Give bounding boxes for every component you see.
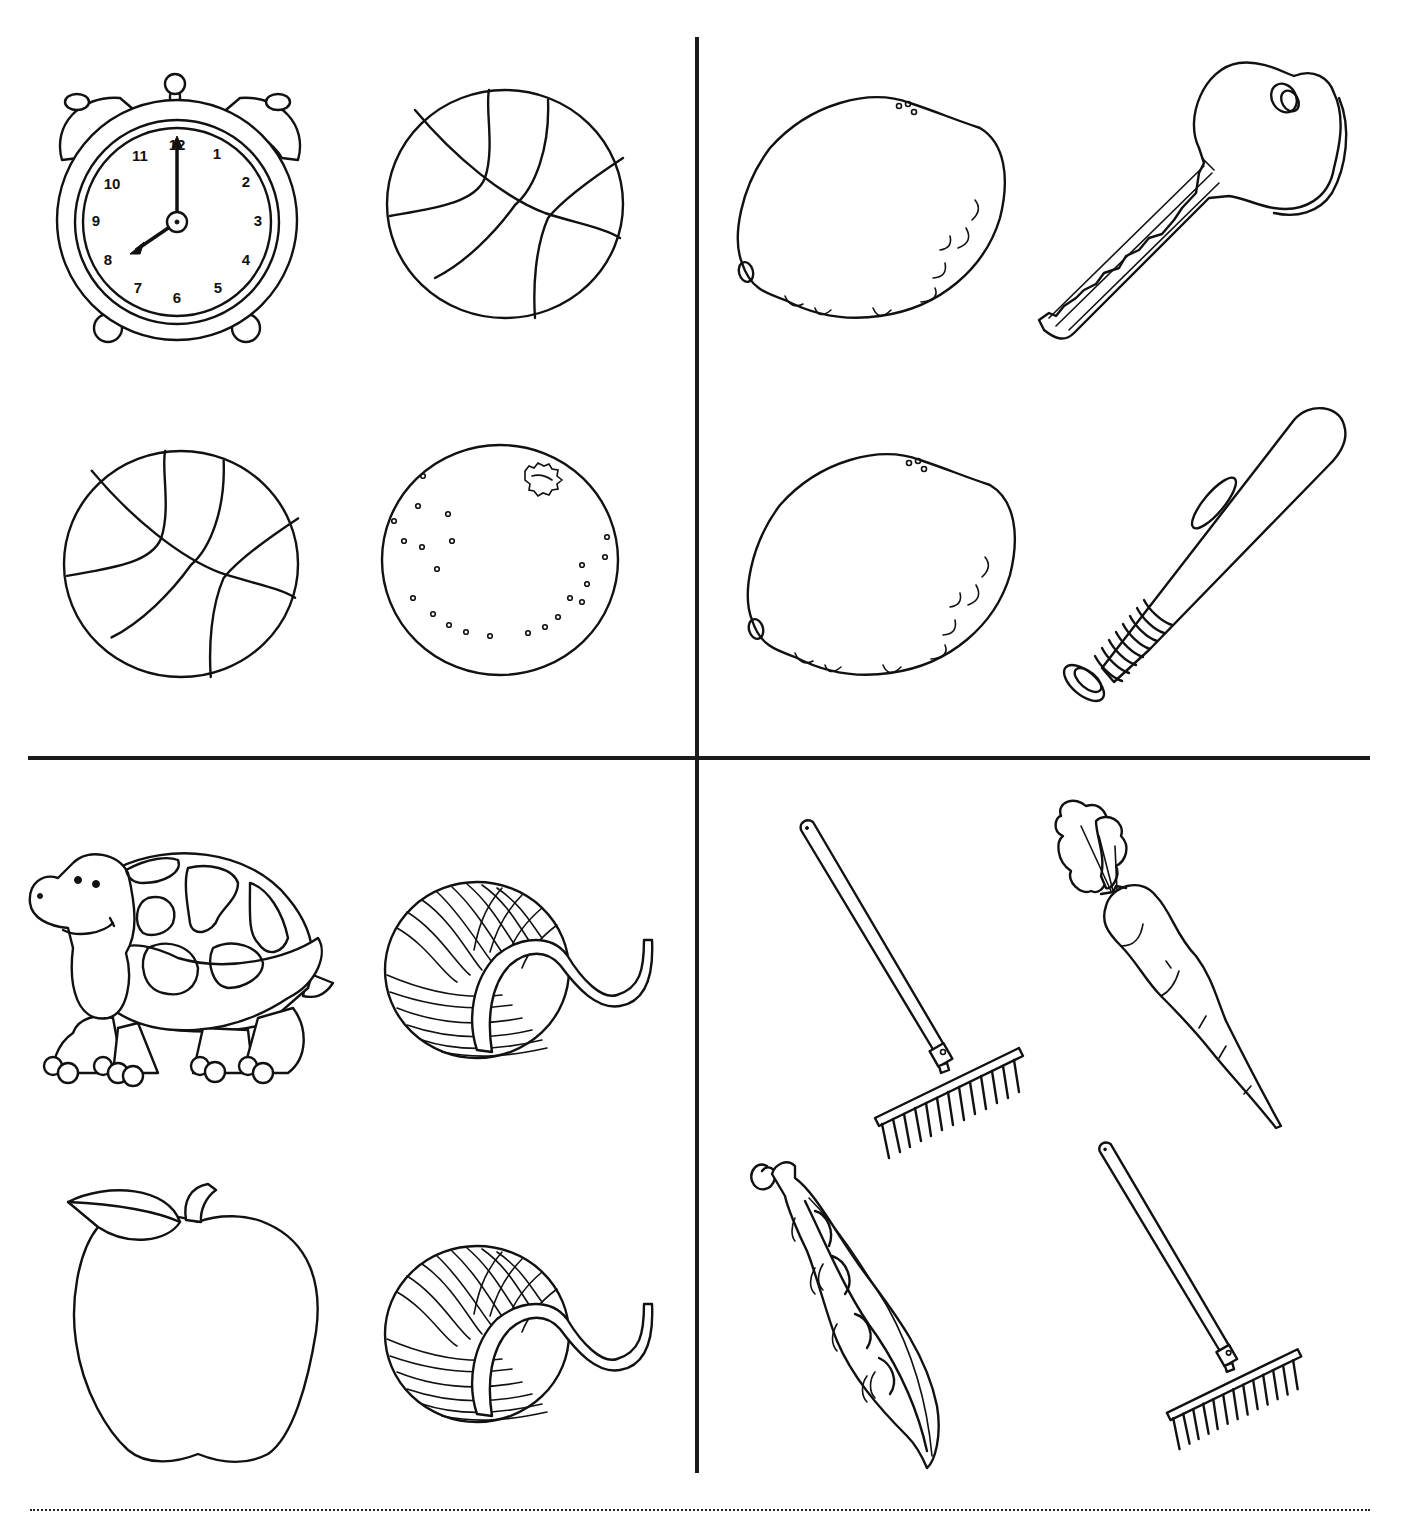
rake-icon — [797, 818, 1037, 1163]
yarn-ball-picture[interactable] — [382, 880, 658, 1060]
svg-text:10: 10 — [104, 175, 121, 192]
dotted-cut-line — [30, 1509, 1370, 1511]
svg-text:9: 9 — [92, 212, 100, 229]
orange-picture[interactable] — [380, 443, 620, 677]
pea-pod-picture[interactable] — [747, 1156, 972, 1476]
lemon-picture[interactable] — [730, 88, 1020, 323]
quadrant-top-left: 12 1 2 3 4 5 6 7 8 9 10 11 — [0, 0, 695, 756]
baseball-bat-picture[interactable] — [1044, 400, 1359, 700]
svg-text:5: 5 — [214, 279, 222, 296]
rake-picture[interactable] — [1096, 1132, 1314, 1462]
pea-pod-icon — [747, 1156, 972, 1476]
basketball-icon — [385, 88, 625, 320]
carrot-picture[interactable] — [1051, 796, 1313, 1136]
orange-icon — [380, 443, 620, 677]
yarn-ball-picture[interactable] — [382, 1244, 658, 1424]
svg-text:8: 8 — [104, 251, 112, 268]
quadrant-bottom-left — [0, 760, 695, 1518]
basketball-icon — [62, 448, 300, 680]
svg-text:11: 11 — [132, 147, 148, 164]
apple-picture[interactable] — [68, 1182, 326, 1472]
turtle-picture[interactable] — [18, 838, 340, 1088]
svg-text:4: 4 — [242, 251, 251, 268]
baseball-bat-icon — [1044, 400, 1359, 700]
alarm-clock-icon: 12 1 2 3 4 5 6 7 8 9 10 11 — [50, 70, 310, 350]
basketball-picture[interactable] — [385, 88, 625, 320]
svg-text:2: 2 — [242, 173, 250, 190]
apple-icon — [68, 1182, 326, 1472]
key-picture[interactable] — [1034, 58, 1364, 348]
worksheet-page: 12 1 2 3 4 5 6 7 8 9 10 11 — [0, 0, 1401, 1518]
svg-text:7: 7 — [134, 279, 142, 296]
svg-text:6: 6 — [173, 289, 181, 306]
quadrant-bottom-right — [699, 760, 1401, 1518]
yarn-ball-icon — [382, 1244, 658, 1424]
lemon-icon — [730, 88, 1020, 323]
turtle-icon — [18, 838, 340, 1088]
rake-picture[interactable] — [797, 818, 1037, 1163]
alarm-clock-picture[interactable]: 12 1 2 3 4 5 6 7 8 9 10 11 — [50, 70, 310, 350]
carrot-icon — [1051, 796, 1313, 1136]
quadrant-top-right — [699, 0, 1401, 756]
yarn-ball-icon — [382, 880, 658, 1060]
svg-text:1: 1 — [213, 145, 221, 162]
basketball-picture[interactable] — [62, 448, 300, 680]
lemon-icon — [740, 445, 1030, 680]
rake-icon — [1096, 1132, 1314, 1462]
key-icon — [1034, 58, 1364, 348]
svg-text:3: 3 — [254, 212, 262, 229]
lemon-picture[interactable] — [740, 445, 1030, 680]
